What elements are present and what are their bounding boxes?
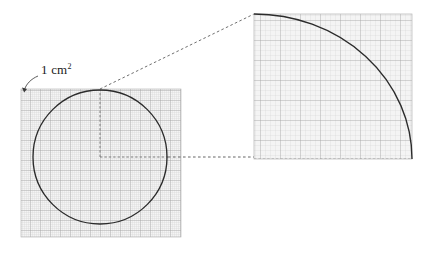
unit-area-exponent: 2 xyxy=(67,62,71,71)
magnified-panel-group xyxy=(254,14,412,159)
left-grid-paper xyxy=(21,89,181,237)
unit-area-label: 1 cm2 xyxy=(41,62,72,78)
left-panel-group xyxy=(21,89,181,237)
magnified-grid-paper xyxy=(254,14,412,159)
upper-connector-line xyxy=(100,14,254,89)
figure-canvas xyxy=(0,0,425,260)
unit-area-value: 1 cm xyxy=(41,62,67,77)
callout-arrow-curve xyxy=(24,76,38,91)
geometry-figure: 1 cm2 xyxy=(0,0,425,260)
